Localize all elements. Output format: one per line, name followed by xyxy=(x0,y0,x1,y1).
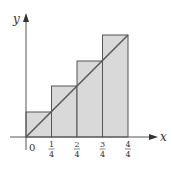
tick-1-numerator: 1 xyxy=(49,140,54,149)
tick-2-numerator: 2 xyxy=(74,140,79,149)
y-axis-label: y xyxy=(12,12,20,26)
x-axis-arrow-icon xyxy=(149,134,158,140)
rect-2 xyxy=(52,86,78,137)
y-axis-arrow-icon xyxy=(23,13,29,22)
origin-label: 0 xyxy=(29,142,35,153)
tick-3-denominator: 4 xyxy=(100,150,105,159)
tick-1-denominator: 4 xyxy=(49,150,54,159)
x-tick-labels: 1 4 2 4 3 4 4 4 xyxy=(49,140,132,159)
riemann-sum-diagram: x y 0 1 4 2 4 3 4 4 4 xyxy=(0,0,176,171)
x-axis-label: x xyxy=(160,130,167,144)
tick-3-numerator: 3 xyxy=(100,140,105,149)
rect-4 xyxy=(103,35,129,137)
tick-4-denominator: 4 xyxy=(125,150,130,159)
tick-2-denominator: 4 xyxy=(74,150,79,159)
tick-4-numerator: 4 xyxy=(125,140,130,149)
